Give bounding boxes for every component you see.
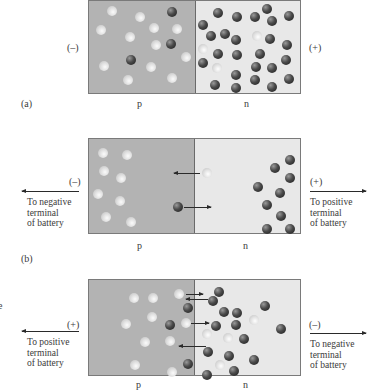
hole — [115, 196, 125, 206]
electron — [213, 49, 223, 59]
panel-c-junction — [88, 279, 301, 376]
electron — [276, 324, 286, 334]
panel-c-left-terminal: (+) — [67, 319, 79, 330]
electron — [267, 82, 277, 92]
electron — [208, 296, 218, 306]
hole — [130, 360, 140, 370]
electron — [285, 173, 295, 183]
panel-a-junction — [88, 0, 301, 94]
panel-b-left-caption: To negative terminal of battery — [27, 197, 71, 229]
arrow-left-icon — [22, 331, 79, 332]
hole — [140, 337, 150, 347]
cropped-text-fragment: e — [0, 300, 2, 311]
hole — [125, 32, 135, 42]
panel-b-junction — [88, 138, 301, 234]
hole — [172, 24, 182, 34]
electron — [231, 83, 241, 93]
electron — [167, 7, 177, 17]
electron — [173, 202, 183, 212]
electron — [282, 40, 292, 50]
electron — [231, 320, 241, 330]
electron — [275, 188, 285, 198]
electron — [213, 8, 223, 18]
hole — [148, 293, 158, 303]
electron — [126, 55, 136, 65]
hole — [99, 61, 109, 71]
panel-c-left-caption: To positive terminal of battery — [27, 337, 69, 369]
electron — [224, 351, 234, 361]
electron — [265, 34, 275, 44]
electron — [270, 163, 280, 173]
hole — [147, 312, 157, 322]
electron — [202, 370, 212, 380]
hole — [202, 329, 212, 339]
panel-a-right-terminal: (+) — [309, 42, 321, 53]
electron — [231, 35, 241, 45]
electron — [211, 321, 221, 331]
hole — [123, 75, 133, 85]
electron — [183, 359, 193, 369]
electron — [260, 301, 270, 311]
electron — [250, 12, 260, 22]
hole — [126, 217, 136, 227]
electron — [262, 4, 272, 14]
electron — [206, 31, 216, 41]
electron — [284, 74, 294, 84]
arrow-left-icon — [186, 299, 208, 300]
electron — [232, 50, 242, 60]
hole — [149, 23, 159, 33]
electron — [166, 39, 176, 49]
panel-a-label: (a) — [21, 98, 32, 109]
electron — [284, 11, 294, 21]
electron — [262, 224, 272, 234]
arrow-left-icon — [174, 173, 200, 174]
hole — [212, 63, 222, 73]
electron — [183, 303, 193, 313]
electron — [214, 287, 224, 297]
panel-b-right-terminal: (+) — [310, 176, 322, 187]
electron — [253, 182, 263, 192]
arrow-right-icon — [186, 294, 203, 295]
panel-b-label: (b) — [21, 253, 33, 264]
electron — [285, 155, 295, 165]
electron — [255, 49, 265, 59]
hole — [135, 12, 145, 22]
hole — [116, 173, 126, 183]
electron — [267, 63, 277, 73]
hole — [223, 333, 233, 343]
hole — [174, 289, 184, 299]
electron — [262, 200, 272, 210]
hole — [122, 150, 132, 160]
electron — [251, 62, 261, 72]
panel-a-left-terminal: (–) — [67, 42, 79, 53]
hole — [151, 40, 161, 50]
electron — [220, 29, 230, 39]
electron — [165, 320, 175, 330]
hole — [181, 52, 191, 62]
arrow-right-icon — [310, 333, 366, 334]
electron — [210, 80, 220, 90]
arrow-right-icon — [184, 207, 211, 208]
panel-c-p-label: p — [136, 379, 141, 390]
electron — [250, 75, 260, 85]
electron — [203, 347, 213, 357]
electron — [239, 334, 249, 344]
electron — [249, 355, 259, 365]
arrow-left-icon — [179, 346, 206, 347]
panel-c-right-terminal: (–) — [309, 319, 321, 330]
arrow-right-icon — [191, 323, 209, 324]
electron — [285, 224, 295, 234]
hole — [96, 25, 106, 35]
panel-a-n-label: n — [244, 98, 249, 109]
electron — [276, 211, 286, 221]
electron — [198, 58, 208, 68]
hole — [249, 315, 259, 325]
hole — [93, 189, 103, 199]
panel-c-n-label: n — [243, 379, 248, 390]
hole — [202, 168, 212, 178]
panel-c-right-caption: To negative terminal of battery — [310, 339, 354, 371]
arrow-right-icon — [310, 191, 366, 192]
hole — [165, 336, 175, 346]
hole — [198, 44, 208, 54]
panel-b-p-label: p — [137, 240, 142, 251]
